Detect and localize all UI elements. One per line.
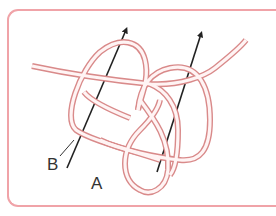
- label-a: A: [91, 175, 102, 192]
- knot-diagram: [0, 0, 276, 216]
- label-b-leader: [60, 140, 74, 156]
- label-b: B: [47, 156, 58, 173]
- rope: [32, 40, 246, 192]
